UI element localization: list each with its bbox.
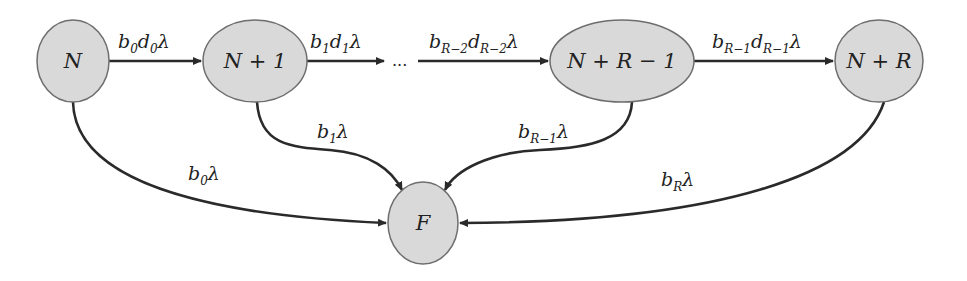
- node-label-n-plus-r: N + R: [845, 49, 911, 73]
- edge-label-nr1-to-nr: bR−1dR−1λ: [712, 30, 802, 56]
- edge-n1-to-f: b1λ: [257, 102, 402, 190]
- node-n-plus-1: N + 1: [203, 20, 307, 102]
- node-label-n: N: [63, 49, 83, 73]
- node-label-n-plus-r-minus-1: N + R − 1: [566, 49, 676, 73]
- edge-label-n1-to-f: b1λ: [317, 120, 349, 146]
- node-label-n-plus-1: N + 1: [223, 49, 287, 73]
- edge-label-nr-to-f: bRλ: [661, 168, 694, 194]
- node-label-f: F: [415, 211, 432, 235]
- node-n-plus-r: N + R: [835, 20, 923, 102]
- state-transition-diagram: b0d0λ b1d1λ ... bR−2dR−2λ bR−1dR−1λ b0λ …: [0, 0, 967, 281]
- edge-label-nr1-to-f: bR−1λ: [518, 120, 569, 146]
- edge-n-to-n1: b0d0λ: [109, 30, 201, 61]
- ellipsis: ...: [392, 51, 407, 70]
- edge-n1-to-ellipsis: b1d1λ: [307, 30, 384, 61]
- edge-label-n-to-f: b0λ: [188, 162, 220, 188]
- edge-label-ellipsis-to-nr1: bR−2dR−2λ: [429, 30, 519, 56]
- edge-label-n-to-n1: b0d0λ: [118, 30, 170, 56]
- node-f: F: [388, 182, 458, 264]
- node-n-plus-r-minus-1: N + R − 1: [550, 20, 694, 102]
- edge-label-n1-to-ellipsis: b1d1λ: [310, 30, 362, 56]
- node-n: N: [37, 20, 109, 102]
- edge-ellipsis-to-nr1: bR−2dR−2λ: [418, 30, 548, 61]
- edge-nr1-to-f: bR−1λ: [445, 102, 632, 190]
- edge-nr1-to-nr: bR−1dR−1λ: [694, 30, 833, 61]
